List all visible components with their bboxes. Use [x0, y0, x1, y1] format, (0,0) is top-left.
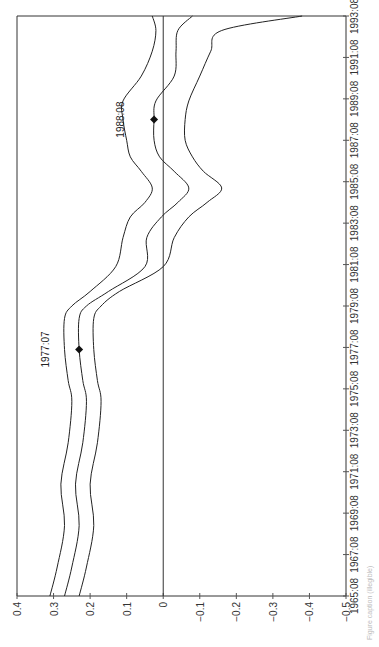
annotation-label: 1988:08	[115, 101, 126, 138]
value-tick-label: 0	[158, 602, 169, 608]
annotation-label: 1977:07	[40, 331, 51, 368]
value-tick-label: −0.3	[268, 602, 279, 622]
value-tick-label: 0.3	[49, 602, 60, 616]
plot-frame	[17, 16, 346, 596]
time-tick-label: 1985:08	[349, 163, 360, 200]
time-tick-label: 1977:08	[349, 329, 360, 366]
time-tick-label: 1987:08	[349, 122, 360, 159]
time-tick-label: 1973:08	[349, 412, 360, 449]
rotated-line-chart: 0.40.30.20.10−0.1−0.2−0.3−0.4−0.5 1965:0…	[0, 0, 379, 647]
time-tick-label: 1975:08	[349, 370, 360, 407]
value-tick-label: −0.2	[231, 602, 242, 622]
time-tick-label: 1979:08	[349, 287, 360, 324]
value-tick-label: −0.1	[195, 602, 206, 622]
time-tick-label: 1989:08	[349, 80, 360, 117]
diamond-marker-icon	[150, 116, 158, 124]
time-tick-label: 1969:08	[349, 495, 360, 532]
figure-caption: Figure caption (illegible)	[366, 566, 374, 640]
value-axis-ticks: 0.40.30.20.10−0.1−0.2−0.3−0.4−0.5	[12, 593, 352, 622]
value-tick-label: −0.4	[304, 602, 315, 622]
value-tick-label: 0.2	[85, 602, 96, 616]
annotations: 1977:071988:08	[40, 101, 158, 368]
series-lines	[50, 16, 302, 596]
series-line-lower-band	[79, 16, 302, 596]
series-line-upper-band	[50, 16, 156, 596]
time-tick-label: 1965:08	[349, 577, 360, 614]
time-tick-label: 1967:08	[349, 536, 360, 573]
value-tick-label: 0.1	[122, 602, 133, 616]
series-line-estimate	[65, 16, 193, 596]
time-tick-label: 1983:08	[349, 205, 360, 242]
time-tick-label: 1993:08	[349, 0, 360, 34]
time-tick-label: 1981:08	[349, 246, 360, 283]
time-tick-label: 1971:08	[349, 453, 360, 490]
time-tick-label: 1991:08	[349, 39, 360, 76]
diamond-marker-icon	[75, 346, 83, 354]
value-tick-label: 0.4	[12, 602, 23, 616]
